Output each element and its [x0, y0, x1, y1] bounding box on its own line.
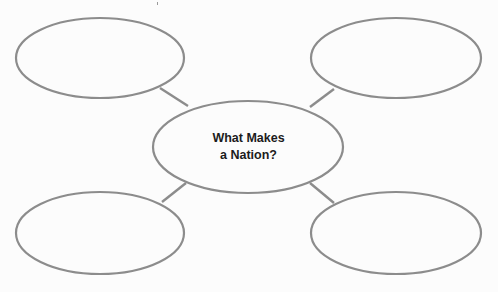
center-node	[153, 101, 343, 193]
scan-artifact	[157, 2, 158, 5]
node-top-right-text-area[interactable]	[311, 18, 481, 98]
connector-lines	[160, 88, 334, 203]
node-top-left-text-area[interactable]	[16, 18, 184, 98]
node-bottom-left-text-area[interactable]	[16, 192, 184, 274]
node-bottom-right-text-area[interactable]	[311, 192, 481, 274]
